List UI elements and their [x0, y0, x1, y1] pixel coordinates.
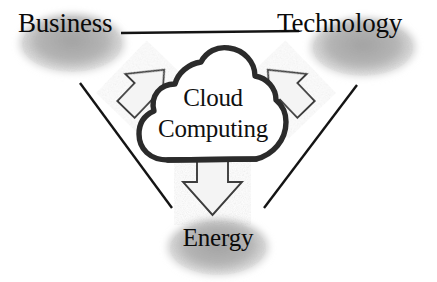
cloud-computing-label: Cloud Computing [140, 82, 286, 144]
cloud-label-line-1: Cloud [140, 82, 286, 113]
connector-business-technology [121, 31, 299, 33]
cloud-computing-diagram: Business Technology Energy Cloud Computi… [0, 0, 437, 282]
node-label-technology: Technology [277, 8, 402, 38]
cloud-label-line-2: Computing [140, 113, 286, 144]
node-label-business: Business [18, 8, 112, 38]
node-label-energy: Energy [168, 224, 268, 252]
